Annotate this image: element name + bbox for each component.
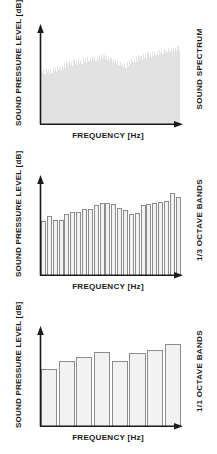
bar <box>82 209 87 275</box>
bar <box>76 357 92 426</box>
bar <box>123 210 128 275</box>
bar <box>135 213 140 275</box>
bar <box>112 361 128 426</box>
plot-area-full-octave-bands <box>40 328 182 426</box>
bar <box>94 352 110 426</box>
bar <box>88 209 93 275</box>
bar <box>158 202 163 275</box>
spectrum-line <box>179 50 180 124</box>
bar <box>41 369 57 426</box>
bar-series-third-octave <box>41 177 181 275</box>
panel-caption-sound-spectrum: SOUND SPECTRUM <box>193 9 207 129</box>
sound-spectrum-figure: SOUND PRESSURE LEVEL [dB] SOUND SPECTRUM… <box>0 0 217 454</box>
x-axis-label: FREQUENCY [Hz] <box>33 131 183 140</box>
x-axis-label: FREQUENCY [Hz] <box>33 433 183 442</box>
y-axis-label: SOUND PRESSURE LEVEL [dB] <box>12 6 26 126</box>
bar <box>53 220 58 275</box>
bar-series-full-octave <box>41 328 181 426</box>
bar <box>41 221 46 275</box>
plot-area-sound-spectrum <box>40 26 182 124</box>
bar <box>147 350 163 426</box>
bar <box>152 203 157 275</box>
bar <box>129 214 134 275</box>
bar <box>100 203 105 275</box>
bar <box>47 216 52 275</box>
bar <box>111 204 116 275</box>
y-axis-label: SOUND PRESSURE LEVEL [dB] <box>12 157 26 277</box>
bar <box>105 203 110 275</box>
spectrum-series <box>41 26 181 124</box>
bar <box>141 205 146 275</box>
bar <box>59 220 64 275</box>
bar <box>146 204 151 275</box>
bar <box>64 214 69 275</box>
bar <box>164 201 169 275</box>
bar <box>76 212 81 275</box>
bar <box>117 208 122 275</box>
bar <box>170 193 175 275</box>
x-axis-label: FREQUENCY [Hz] <box>33 282 183 291</box>
bar <box>129 353 145 426</box>
bar <box>59 361 75 426</box>
panel-third-octave-bands: SOUND PRESSURE LEVEL [dB] 1/3 OCTAVE BAN… <box>0 151 217 302</box>
bar <box>70 212 75 275</box>
panel-caption-full-octave-bands: 1/1 OCTAVE BANDS <box>193 311 207 431</box>
y-axis-label: SOUND PRESSURE LEVEL [dB] <box>12 308 26 428</box>
panel-sound-spectrum: SOUND PRESSURE LEVEL [dB] SOUND SPECTRUM… <box>0 0 217 151</box>
plot-area-third-octave-bands <box>40 177 182 275</box>
panel-full-octave-bands: SOUND PRESSURE LEVEL [dB] 1/1 OCTAVE BAN… <box>0 302 217 453</box>
bar <box>94 205 99 275</box>
bar <box>165 344 181 426</box>
bar <box>176 197 181 275</box>
panel-caption-third-octave-bands: 1/3 OCTAVE BANDS <box>193 160 207 280</box>
